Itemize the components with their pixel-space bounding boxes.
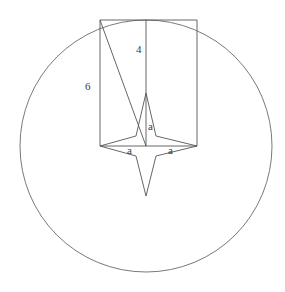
label-a-right: a — [168, 145, 173, 156]
label-side-4: 4 — [136, 44, 142, 55]
label-side-6: 6 — [85, 81, 91, 92]
diagonal-line — [100, 20, 146, 146]
geometry-canvas — [0, 0, 285, 292]
label-a-left: a — [127, 145, 132, 156]
four-pointed-star — [100, 93, 197, 196]
label-a-vertical: a — [148, 121, 153, 132]
geometry-figure: 6 4 a a a — [0, 0, 285, 292]
